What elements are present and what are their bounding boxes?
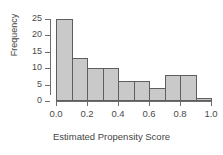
y-tick: 25 [45,19,50,20]
x-tick [87,101,88,106]
x-tick-label: 0.2 [80,108,93,119]
y-tick: 15 [45,52,50,53]
y-tick: 0 [45,101,50,102]
x-tick [56,101,57,106]
x-axis-label: Estimated Propensity Score [0,131,223,142]
histogram-bar [87,68,104,101]
histogram-bar [56,19,73,101]
x-tick-label: 0.0 [49,108,62,119]
y-tick-label: 20 [20,29,42,39]
x-tick-label: 0.4 [111,108,124,119]
histogram-plot: Frequency 0510152025 0.00.20.40.60.81.0 … [0,0,223,155]
x-tick [180,101,181,106]
x-tick-label: 1.0 [204,108,217,119]
histogram-bar [103,68,120,101]
y-tick: 20 [45,35,50,36]
y-axis-label: Frequency [9,0,19,75]
y-tick-label: 10 [20,62,42,72]
x-tick [118,101,119,106]
y-tick-label: 25 [20,13,42,23]
x-tick-label: 0.8 [173,108,186,119]
y-tick-label: 15 [20,46,42,56]
histogram-bar [165,75,182,101]
histogram-bar [149,88,166,101]
x-axis-line [56,101,211,102]
y-tick-label: 0 [20,95,42,105]
y-tick: 10 [45,68,50,69]
x-tick [211,101,212,106]
histogram-bar [180,75,197,101]
y-tick-label: 5 [20,79,42,89]
y-tick: 5 [45,85,50,86]
histogram-bar [72,58,89,101]
histogram-bar [118,81,135,101]
x-tick-label: 0.6 [142,108,155,119]
x-tick [149,101,150,106]
histogram-bar [134,81,151,101]
y-axis-line [50,19,51,95]
